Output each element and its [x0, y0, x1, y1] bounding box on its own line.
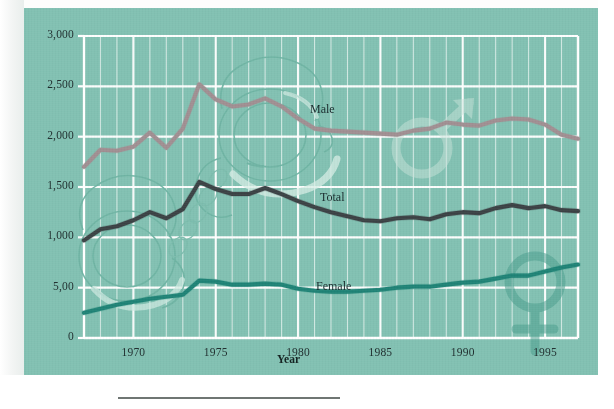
series-label-male: Male — [310, 102, 335, 117]
figure-caption-rule — [118, 397, 340, 399]
y-tick-label: 2,500 — [22, 78, 74, 90]
page-left-margin — [0, 0, 24, 409]
figure-page: 05,001,0001,5002,0002,5003,000 197019751… — [0, 0, 614, 409]
page-bottom-margin — [0, 375, 614, 409]
page-right-margin — [598, 0, 614, 409]
series-label-total: Total — [320, 190, 345, 205]
x-tick-label: 1990 — [433, 346, 493, 358]
x-tick-label: 1970 — [103, 346, 163, 358]
y-tick-label: 0 — [22, 330, 74, 342]
chart-panel: 05,001,0001,5002,0002,5003,000 197019751… — [22, 8, 600, 375]
y-tick-label: 1,500 — [22, 179, 74, 191]
plot-area: 05,001,0001,5002,0002,5003,000 197019751… — [22, 8, 600, 375]
y-tick-label: 5,00 — [22, 280, 74, 292]
y-tick-label: 1,000 — [22, 229, 74, 241]
series-label-female: Female — [316, 279, 351, 294]
x-tick-label: 1985 — [350, 346, 410, 358]
y-tick-label: 2,000 — [22, 129, 74, 141]
y-tick-label: 3,000 — [22, 28, 74, 40]
x-tick-label: 1995 — [515, 346, 575, 358]
series-line-male — [84, 84, 578, 167]
x-axis-title: Year — [277, 353, 300, 365]
series-layer — [22, 8, 600, 375]
x-tick-label: 1975 — [186, 346, 246, 358]
